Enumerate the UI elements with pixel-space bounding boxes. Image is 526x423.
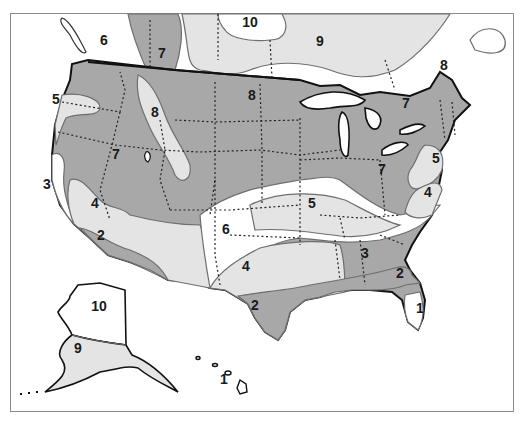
- zone-label: 2: [97, 227, 105, 243]
- zone-label: 3: [361, 245, 369, 261]
- zone-label: 7: [378, 161, 386, 177]
- zone-label: 8: [248, 87, 256, 103]
- zone-label: 6: [222, 221, 230, 237]
- zone-label: 10: [242, 14, 258, 30]
- zone-label: 7: [112, 146, 120, 162]
- zone-label: 4: [424, 184, 432, 200]
- zone-label: 2: [251, 297, 259, 313]
- zone-label: 6: [100, 32, 108, 48]
- zone-label: 10: [91, 298, 107, 314]
- zone-label: 1: [416, 300, 424, 316]
- hawaii-island-1: [196, 357, 200, 360]
- zone-label: 9: [74, 340, 82, 356]
- zone-label: 5: [308, 195, 316, 211]
- zone-map: 10 6 7 9 8 8 7 5 8 7 5 7 3 4 5 4 6 2 3 4…: [0, 0, 526, 423]
- hawaii-big-island: [237, 380, 247, 394]
- aleutian-islands: [20, 392, 38, 394]
- vancouver-island: [61, 18, 86, 53]
- great-salt-lake: [145, 152, 150, 162]
- lake-canada-ne: [470, 29, 505, 53]
- zone-label: 8: [440, 57, 448, 73]
- zone-label: 9: [316, 33, 324, 49]
- zone-label: 5: [432, 150, 440, 166]
- zone-label: 4: [242, 258, 250, 274]
- zone-label: 5: [52, 91, 60, 107]
- hawaii-island-2: [213, 364, 218, 367]
- zone-label: 3: [43, 176, 51, 192]
- zone-7-rockies-canada: [128, 14, 181, 73]
- alaska-zone-10: [58, 283, 126, 345]
- zone-label: 2: [396, 265, 404, 281]
- zone-label: 1: [220, 371, 228, 387]
- zone-label: 7: [158, 45, 166, 61]
- zone-label: 7: [402, 95, 410, 111]
- zone-label: 4: [91, 195, 99, 211]
- zone-label: 8: [151, 104, 159, 120]
